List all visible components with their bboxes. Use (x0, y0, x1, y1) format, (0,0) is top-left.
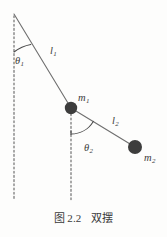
label-m1-subscript: 1 (86, 97, 90, 104)
rod-l2 (71, 108, 135, 147)
label-m1-symbol: m (78, 92, 86, 103)
label-theta2: θ2 (84, 143, 93, 155)
label-l2: l2 (112, 116, 119, 128)
caption-prefix: 图 (54, 212, 65, 224)
angle-arc-theta2 (71, 121, 93, 134)
caption-number: 2.2 (65, 212, 83, 224)
label-m2: m2 (144, 153, 155, 165)
pendulum-bob-m1 (65, 102, 77, 114)
caption-title: 双摆 (84, 212, 113, 224)
double-pendulum-diagram (0, 0, 167, 237)
label-theta1-subscript: 1 (20, 60, 24, 67)
label-l2-subscript: 2 (115, 120, 119, 127)
angle-arc-theta1 (14, 44, 31, 52)
label-l1-subscript: 1 (53, 50, 57, 57)
label-theta1: θ1 (15, 56, 24, 68)
label-m2-subscript: 2 (152, 157, 156, 164)
label-theta2-subscript: 2 (89, 147, 93, 154)
figure-caption: 图2.2双摆 (0, 209, 167, 225)
figure-container: θ1 θ2 l1 l2 m1 m2 图2.2双摆 (0, 0, 167, 237)
pendulum-bob-m2 (128, 140, 142, 154)
label-m2-symbol: m (144, 152, 152, 163)
label-m1: m1 (78, 93, 89, 105)
label-l1: l1 (50, 46, 57, 58)
